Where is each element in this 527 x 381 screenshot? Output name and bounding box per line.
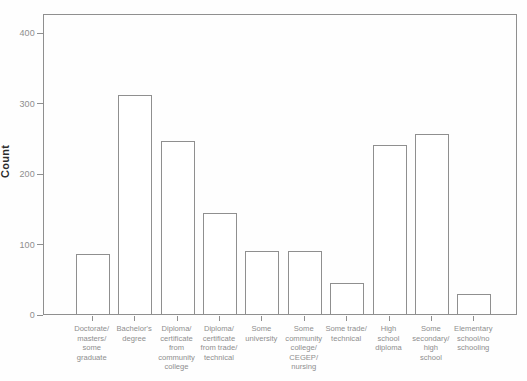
y-tick	[37, 174, 43, 175]
bar-3	[161, 141, 195, 314]
x-category-label: Someuniversity	[237, 324, 285, 343]
y-tick-label: 0	[2, 310, 35, 320]
y-tick-label: 200	[2, 169, 35, 179]
y-tick	[37, 244, 43, 245]
bar-2	[118, 95, 152, 314]
x-tick	[261, 316, 262, 321]
education-count-bar-chart: Count 0100200300400Doctorate/masters/som…	[0, 0, 527, 381]
x-tick	[389, 316, 390, 321]
y-tick-label: 400	[2, 28, 35, 38]
y-tick	[37, 103, 43, 104]
x-tick	[304, 316, 305, 321]
x-tick	[134, 316, 135, 321]
x-category-label: Elementaryschool/noschooling	[449, 324, 497, 353]
x-category-label: Somecommunitycollege/CEGEP/nursing	[280, 324, 328, 372]
plot-area	[43, 14, 517, 315]
x-category-label: Diploma/certificatefrom trade/technical	[195, 324, 243, 362]
x-tick	[92, 316, 93, 321]
x-tick	[219, 316, 220, 321]
x-tick	[346, 316, 347, 321]
x-category-label: Highschooldiploma	[365, 324, 413, 353]
bar-5	[245, 251, 279, 314]
x-category-label: Some trade/technical	[322, 324, 370, 343]
y-tick	[37, 33, 43, 34]
y-tick-label: 300	[2, 99, 35, 109]
x-category-label: Diploma/certificatefromcommunitycollege	[153, 324, 201, 372]
x-tick	[431, 316, 432, 321]
x-tick	[473, 316, 474, 321]
bar-1	[76, 254, 110, 314]
bar-4	[203, 213, 237, 314]
y-tick	[37, 315, 43, 316]
bar-10	[457, 294, 491, 314]
x-tick	[177, 316, 178, 321]
y-tick-label: 100	[2, 240, 35, 250]
bar-9	[415, 134, 449, 314]
x-category-label: Bachelor'sdegree	[110, 324, 158, 343]
bar-8	[373, 145, 407, 314]
bar-7	[330, 283, 364, 314]
bar-6	[288, 251, 322, 314]
x-category-label: Doctorate/masters/somegraduate	[68, 324, 116, 362]
x-category-label: Somesecondary/highschool	[407, 324, 455, 362]
